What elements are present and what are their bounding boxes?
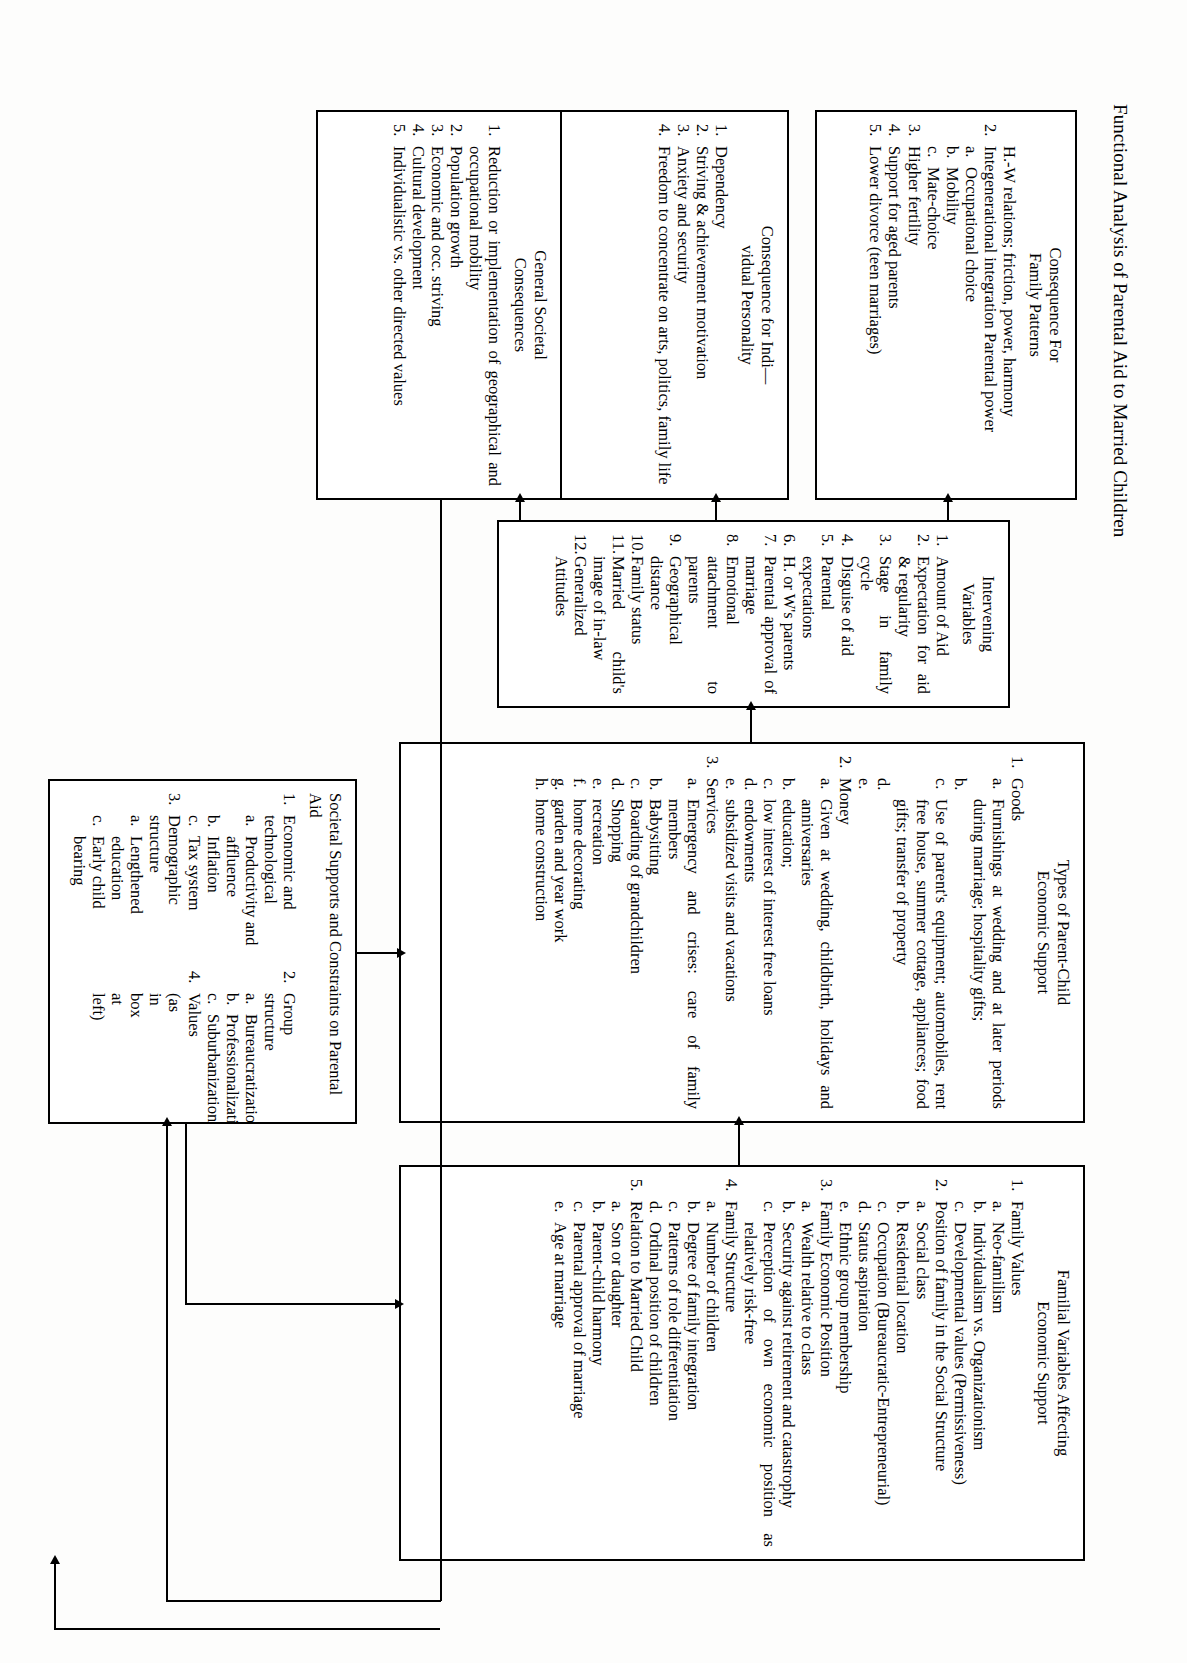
list-marker: 4. [837, 534, 856, 554]
list-text: Parental expectations [799, 556, 837, 694]
list-item: 5.Parental expectations [799, 534, 837, 694]
sublist-text: Social class [912, 1222, 931, 1547]
list-text: Anxiety and security [674, 146, 693, 486]
list-marker: 3. [876, 534, 895, 554]
list-marker: 12. [571, 534, 590, 554]
list-item: 3.Demographic structurea.Lengthened educ… [70, 793, 184, 961]
sublist-marker: b. [779, 1201, 798, 1220]
list-marker: 6. [780, 534, 799, 554]
list-item: 4. Cultural development [409, 124, 428, 486]
sublist-marker: e. [722, 778, 741, 797]
sublist-marker: c. [874, 1201, 893, 1220]
list-item: 1.Goodsa.Furnishings at wedding and at l… [855, 756, 1026, 1109]
arrowhead-to-societal [515, 493, 525, 502]
list-marker: 4. [655, 124, 674, 144]
list-text: Lower divorce (teen marriages) [866, 146, 885, 486]
sublist-text: Neo-familism [989, 1222, 1008, 1547]
sublist-item: d.endowments [741, 778, 760, 1109]
list-text: Amount of Aid [933, 556, 952, 694]
list-marker: 3. [165, 793, 184, 813]
list-item: 5.Relation to Married Childa.Son or daug… [551, 1179, 646, 1547]
sublist-text: Ordinal position of children [646, 1222, 665, 1547]
list-marker: 1. [280, 793, 299, 813]
sublist-marker: a. [608, 1201, 627, 1220]
list-marker: 5. [627, 1179, 646, 1199]
list-types: 1.Goodsa.Furnishings at wedding and at l… [532, 756, 1027, 1109]
sublist-text: Number of children [703, 1222, 722, 1547]
list-individual: 1. Dependency 2. Striving & achievement … [655, 124, 731, 486]
sublist-text [951, 799, 970, 1109]
box-societal-supports-and-constraints: Societal Supports and Constraints on Par… [48, 779, 357, 1124]
list-text: Support for aged parents [885, 146, 904, 486]
sublist-item: a.Neo-familism [989, 1201, 1008, 1547]
list-item: 2. Population growth [447, 124, 466, 486]
list-marker: 2. [280, 971, 299, 991]
connector-feedback-familial-h [54, 1562, 56, 1630]
sublist-item: b.Degree of family integration [684, 1201, 703, 1547]
sublist-item: b.Professionalization [223, 993, 242, 1014]
list-text: Married child's image of in-law [590, 556, 628, 694]
sublist: a.Wealth relative to classb.Security aga… [741, 1201, 817, 1547]
list-item: 5. Lower divorce (teen marriages) [866, 124, 885, 486]
list-text: Money [836, 778, 855, 1109]
connector-feedback-societal-v [167, 1600, 441, 1602]
sublist-item: b.education; [779, 778, 798, 1109]
sublist-item: a.Lengthened education [108, 815, 146, 961]
list-marker: 3. [817, 1179, 836, 1199]
arrowhead-familial-from-societal [50, 1555, 60, 1564]
sublist-item: c.Occupation (Bureaucratic-Entrepreneuri… [874, 1201, 893, 1547]
list-marker: 2. [981, 124, 1000, 144]
list-marker: 1. [1008, 756, 1027, 776]
sublist-item: a.Wealth relative to class [798, 1201, 817, 1547]
list-item: 1.Economic and technologicala.Productivi… [184, 793, 298, 961]
sublist-text: Patterns of role differentiation [665, 1222, 684, 1547]
box-heading: Consequence For Family Patterns [1025, 124, 1065, 486]
arrowhead-to-individual [711, 493, 721, 502]
sublist-text: Use of parent's equipment; automobiles, … [893, 799, 950, 1109]
list-item: 11.Married child's image of in-law [590, 534, 628, 694]
sublist: a.Lengthened educationc.Early child bear… [70, 815, 146, 961]
sublist-item: b.Individualism vs. Organizationism [970, 1201, 989, 1547]
sublist-item: e.subsidized visits and vacations [722, 778, 741, 1109]
list-item: 1.Amount of Aid [933, 534, 952, 694]
list-item: 3.Servicesa.Emergency and crises: care o… [532, 756, 722, 1109]
sublist-text: Son or daughter [608, 1222, 627, 1547]
list-item: H.-W relations; friction, power, harmony [1000, 124, 1019, 486]
sublist-item: c.Suburbanization [204, 993, 223, 1014]
sublist-item: a.Furnishings at wedding and at later pe… [970, 778, 1008, 1109]
box-intervening-variables: Intervening Variables 1.Amount of Aid2.E… [497, 520, 1010, 708]
box-heading: General Societal Consequences [510, 124, 550, 486]
arrowhead-familial-from-supports [395, 1299, 404, 1309]
list-text: Family status [628, 556, 647, 694]
sublist-text: Babysitting [646, 799, 665, 1109]
list-marker: 2. [693, 124, 712, 144]
sublist-text: home construction [532, 799, 551, 1109]
box-consequence-for-family-patterns: Consequence For Family Patterns H.-W rel… [815, 110, 1077, 500]
sublist-marker: b. [893, 1201, 912, 1220]
sublist-text: Lengthened education [108, 836, 146, 961]
list-item: 3. Anxiety and security [674, 124, 693, 486]
list-marker: 3. [703, 756, 722, 776]
list-text: Generalized Attitudes [552, 556, 590, 694]
sublist-marker: b. [970, 1201, 989, 1220]
list-text: Disguise of aid [837, 556, 856, 694]
sublist-marker: d. [741, 778, 760, 797]
sublist-item: e. [855, 778, 874, 1109]
sublist-item: a.Given at wedding, childbirth, holidays… [798, 778, 836, 1109]
connector-intervening-to-family-patterns [947, 500, 949, 520]
sublist-item: c. Mate-choice [924, 146, 943, 486]
figure-title: Functional Analysis of Parental Aid to M… [1109, 104, 1131, 537]
box-heading: Types of Parent-Child Economic Support [1033, 756, 1073, 1109]
arrowhead-types-from-supports [397, 948, 406, 958]
sublist-text: endowments [741, 799, 760, 1109]
sublist-marker: d. [646, 1201, 665, 1220]
list-marker: 5. [866, 124, 885, 144]
list-text: Relation to Married Child [627, 1201, 646, 1547]
list-text: Demographic structure [146, 815, 184, 961]
sublist-item: c.low interest of interest free loans [760, 778, 779, 1109]
sublist-item: a. Occupational choice [962, 146, 981, 486]
list-text: Geographical distance [647, 556, 685, 694]
sublist-item: c.Boarding of grandchildren [627, 778, 646, 1109]
sublist: a.Neo-familismb.Individualism vs. Organi… [951, 1201, 1008, 1547]
list-text: Services [703, 778, 722, 1109]
